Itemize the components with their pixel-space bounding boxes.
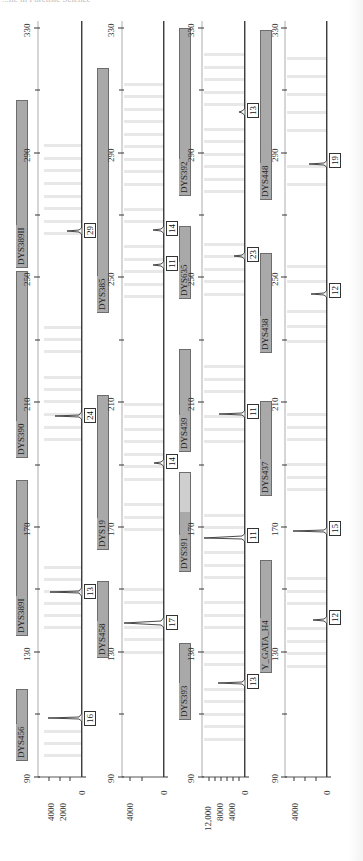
cropped-header-text: ...ile in Forensic Science	[2, 0, 90, 4]
allele-call-y-gata-h4[interactable]: 12	[329, 610, 341, 625]
x-tick-330: 330	[22, 24, 32, 38]
x-tick-210: 210	[186, 398, 196, 412]
x-tick-330: 330	[270, 24, 280, 38]
x-tick-130: 130	[106, 648, 116, 662]
x-tick-170: 170	[106, 523, 116, 537]
y-tick-4000: 4000	[290, 803, 300, 821]
x-tick-250: 250	[186, 273, 196, 287]
x-tick-90: 90	[270, 774, 280, 783]
panel-2: DYS458 DYS19 DYS385	[82, 0, 164, 861]
y-tick-0: 0	[77, 791, 87, 796]
allele-call-dys437[interactable]: 15	[329, 521, 341, 536]
x-tick-250: 250	[106, 273, 116, 287]
x-tick-170: 170	[270, 523, 280, 537]
x-tick-330: 330	[186, 24, 196, 38]
panel-1: DYS456 DYS389I DYS390 DYS389II	[0, 0, 82, 861]
x-tick-90: 90	[22, 774, 32, 783]
x-tick-290: 290	[270, 149, 280, 163]
y-tick-4000: 4000	[227, 803, 237, 821]
x-tick-170: 170	[22, 523, 32, 537]
y-tick-8000: 8000	[215, 803, 225, 821]
x-tick-130: 130	[186, 648, 196, 662]
y-tick-0: 0	[322, 791, 332, 796]
x-tick-290: 290	[186, 149, 196, 163]
y-tick-0: 0	[159, 791, 169, 796]
x-tick-290: 290	[22, 149, 32, 163]
y-tick-4000: 4000	[46, 803, 56, 821]
x-tick-130: 130	[22, 648, 32, 662]
x-tick-250: 250	[270, 273, 280, 287]
panel-4-trace	[245, 0, 327, 861]
x-tick-290: 290	[106, 149, 116, 163]
x-tick-90: 90	[186, 774, 196, 783]
panel-3-trace	[164, 0, 246, 861]
panel-1-trace	[0, 0, 82, 861]
y-tick-4000: 4000	[125, 803, 135, 821]
x-tick-210: 210	[22, 398, 32, 412]
x-tick-130: 130	[270, 648, 280, 662]
y-tick-0: 0	[240, 791, 250, 796]
panel-3: DYS393 DYS391 DYS439 DYS635 DYS392	[164, 0, 246, 861]
y-tick-12000: 12,000	[203, 806, 213, 831]
electropherogram-stage: DYS456 DYS389I DYS390 DYS389II	[0, 0, 363, 861]
page-edge	[349, 0, 363, 861]
x-tick-90: 90	[106, 774, 116, 783]
x-tick-210: 210	[106, 398, 116, 412]
panel-4: Y_GATA_H4 DYS437 DYS438 DYS448	[245, 0, 327, 861]
y-tick-2000: 2000	[58, 803, 68, 821]
x-tick-170: 170	[186, 523, 196, 537]
x-tick-250: 250	[22, 273, 32, 287]
allele-call-dys448[interactable]: 19	[329, 153, 341, 168]
allele-call-dys438[interactable]: 12	[329, 283, 341, 298]
x-tick-210: 210	[270, 398, 280, 412]
x-tick-330: 330	[106, 24, 116, 38]
panel-2-trace	[82, 0, 164, 861]
